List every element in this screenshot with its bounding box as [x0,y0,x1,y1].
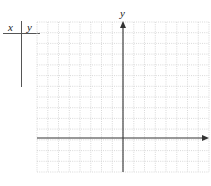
coordinate-grid-diagram [0,0,211,186]
x-axis-arrow-icon [202,135,209,141]
